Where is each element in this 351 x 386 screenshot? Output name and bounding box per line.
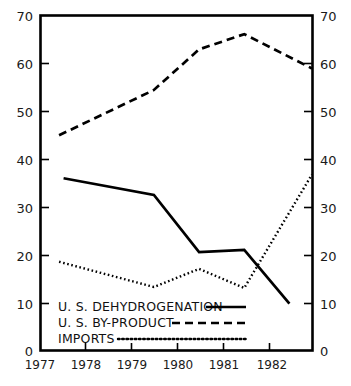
right-tick-label: 20 xyxy=(320,249,337,264)
x-tick-label-1978: 1978 xyxy=(71,358,102,372)
x-tick-label-1979: 1979 xyxy=(117,358,148,372)
x-axis-labels: 1977 1978 1979 1980 1981 1982 xyxy=(25,358,288,372)
data-series-group xyxy=(59,34,312,304)
chart-container: 70 60 50 40 30 20 10 0 70 60 50 40 30 20… xyxy=(0,0,351,386)
legend-label-dehydrogenation: U. S. DEHYDROGENATION xyxy=(58,299,223,314)
left-tick-label: 10 xyxy=(16,297,33,312)
left-axis-labels: 70 60 50 40 30 20 10 0 xyxy=(16,9,33,359)
x-tick-label-1982: 1982 xyxy=(257,358,288,372)
legend-label-imports: IMPORTS xyxy=(58,331,115,346)
legend-label-by-product: U. S. BY-PRODUCT xyxy=(58,315,174,330)
x-tick-label-1977: 1977 xyxy=(25,358,56,372)
right-tick-label: 70 xyxy=(320,9,337,24)
legend: U. S. DEHYDROGENATION U. S. BY-PRODUCT I… xyxy=(58,299,246,346)
line-chart: 70 60 50 40 30 20 10 0 70 60 50 40 30 20… xyxy=(0,0,351,386)
x-tick-label-1980: 1980 xyxy=(163,358,194,372)
right-tick-label: 10 xyxy=(320,297,337,312)
series-line-by-product xyxy=(59,34,312,135)
x-tick-label-1981: 1981 xyxy=(209,358,240,372)
series-line-dehydrogenation xyxy=(64,178,290,303)
left-tick-label: 40 xyxy=(16,153,33,168)
left-tick-label: 60 xyxy=(16,57,33,72)
left-tick-label: 0 xyxy=(25,344,33,359)
left-tick-label: 70 xyxy=(16,9,33,24)
right-tick-label: 60 xyxy=(320,57,337,72)
left-tick-label: 50 xyxy=(16,105,33,120)
right-tick-label: 0 xyxy=(320,344,328,359)
right-tick-label: 40 xyxy=(320,153,337,168)
left-tick-label: 20 xyxy=(16,249,33,264)
left-tick-label: 30 xyxy=(16,201,33,216)
right-tick-label: 50 xyxy=(320,105,337,120)
series-line-imports xyxy=(59,174,312,288)
right-tick-label: 30 xyxy=(320,201,337,216)
right-axis-labels: 70 60 50 40 30 20 10 0 xyxy=(320,9,337,359)
